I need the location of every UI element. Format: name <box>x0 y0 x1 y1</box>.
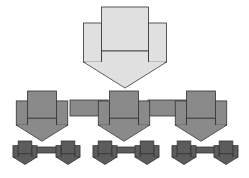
grandchild-node <box>172 141 196 164</box>
grandchild-node <box>56 141 80 164</box>
right-tab <box>32 146 37 157</box>
stem-fill <box>62 154 75 157</box>
main-box <box>186 91 215 118</box>
hierarchy-diagram <box>0 0 249 178</box>
left-tab <box>93 146 98 157</box>
left-tab <box>135 146 140 157</box>
left-tab <box>16 101 27 125</box>
arrow-fill <box>173 157 196 164</box>
arrow-fill <box>14 157 37 164</box>
child-node-3 <box>175 91 226 141</box>
grandchild-node <box>13 141 37 164</box>
stem-fill <box>110 118 138 125</box>
left-tab <box>172 146 177 157</box>
right-tab <box>112 146 117 157</box>
left-tab <box>175 101 186 125</box>
stem-fill <box>102 51 148 62</box>
stem-fill <box>28 118 56 125</box>
right-tab <box>191 146 196 157</box>
child-node-1 <box>16 91 67 141</box>
grandchild-node <box>93 141 117 164</box>
main-box <box>61 141 75 154</box>
right-tab <box>139 101 150 125</box>
left-tab <box>214 146 219 157</box>
child-node-2 <box>98 91 149 141</box>
main-box <box>27 91 56 118</box>
right-tab <box>149 23 167 62</box>
stem-fill <box>19 154 32 157</box>
left-tab <box>13 146 18 157</box>
left-tab <box>84 23 102 62</box>
stem-fill <box>187 118 215 125</box>
arrow-fill <box>215 157 238 164</box>
arrow-fill <box>84 62 166 87</box>
arrow-fill <box>176 125 226 141</box>
arrow-fill <box>17 125 67 141</box>
right-tab <box>57 101 68 125</box>
right-tab <box>233 146 238 157</box>
left-tab <box>56 146 61 157</box>
main-box <box>177 141 191 154</box>
grandchild-node <box>214 141 238 164</box>
stem-fill <box>99 154 112 157</box>
main-box <box>109 91 138 118</box>
right-tab <box>75 146 80 157</box>
stem-fill <box>178 154 191 157</box>
right-tab <box>216 101 227 125</box>
stem-fill <box>220 154 233 157</box>
right-tab <box>154 146 159 157</box>
arrow-fill <box>136 157 159 164</box>
arrow-fill <box>94 157 117 164</box>
root-node <box>84 7 167 88</box>
left-tab <box>98 101 109 125</box>
stem-fill <box>141 154 154 157</box>
main-box <box>102 7 149 51</box>
main-box <box>140 141 154 154</box>
arrow-fill <box>57 157 80 164</box>
main-box <box>98 141 112 154</box>
main-box <box>18 141 32 154</box>
grandchild-node <box>135 141 159 164</box>
main-box <box>219 141 233 154</box>
arrow-fill <box>99 125 149 141</box>
